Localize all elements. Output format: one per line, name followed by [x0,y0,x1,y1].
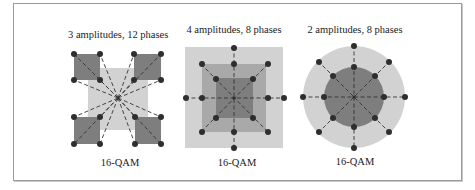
right-panel-title: 2 amplitudes, 8 phases [305,24,405,35]
left-panel-caption: 16-QAM [90,157,150,168]
cluster-bottom-left [74,117,100,144]
left-constellation [71,51,164,147]
middle-constellation [183,45,287,151]
left-panel-title: 3 amplitudes, 12 phases [68,29,168,40]
cluster-top-left [74,54,100,80]
right-constellation [300,43,408,151]
middle-panel-caption: 16-QAM [207,157,267,168]
middle-panel-title: 4 amplitudes, 8 phases [184,24,284,35]
cluster-bottom-right [135,117,161,144]
right-panel-caption: 16-QAM [325,156,385,167]
